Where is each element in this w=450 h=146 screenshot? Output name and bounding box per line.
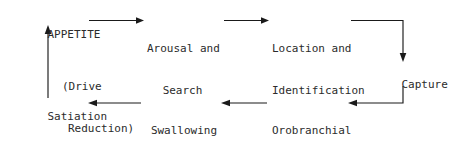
node-arousal-line1: Arousal and [147,42,218,56]
annotation-drive-reduction: (Drive Reduction) [62,52,134,146]
node-capture-label: Capture [402,78,448,91]
node-appetite-label: APPETITE [48,28,101,41]
annotation-drive-reduction-line2: Reduction) [62,122,134,136]
node-appetite[interactable]: APPETITE [21,14,100,56]
node-orobranchial-line1: Orobranchial [272,124,351,138]
edge-orobranchial-to-swallowing [221,100,267,107]
annotation-drive-reduction-line1: (Drive [62,80,134,94]
node-swallowing-line1: Swallowing [146,124,222,138]
node-location-line1: Location and [272,42,365,56]
node-swallowing-or-rejection[interactable]: Swallowing or Rejection [146,96,222,146]
edge-arousal-to-location [224,17,269,24]
node-capture[interactable]: Capture [375,64,448,106]
appetite-cycle-diagram: APPETITE Arousal and Search Location and… [0,0,450,146]
node-orobranchial-manipulation-and-testing[interactable]: Orobranchial Manipulation and Testing [272,96,351,146]
